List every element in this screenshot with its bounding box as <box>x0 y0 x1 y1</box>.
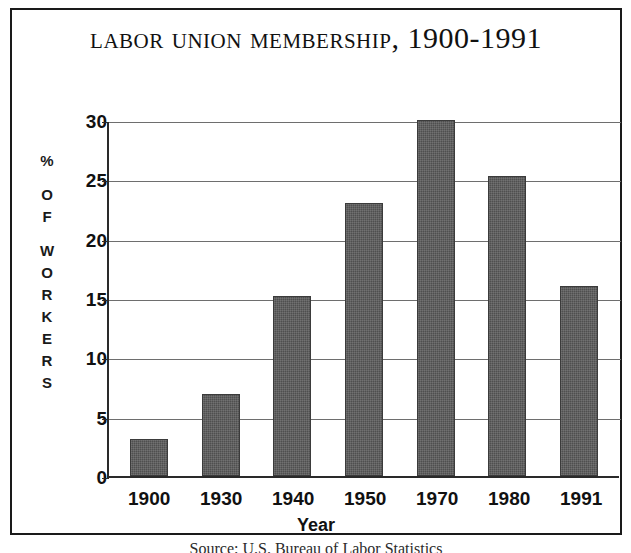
y-tick-label: 5 <box>67 408 107 430</box>
y-tick-mark <box>102 241 109 242</box>
bar-1980 <box>488 176 526 476</box>
y-tick-label: 10 <box>67 348 107 370</box>
plot-wrapper: 051015202530 <box>67 114 619 486</box>
bar-slot <box>202 122 240 476</box>
y-caption-letter: R <box>30 350 64 372</box>
y-tick-mark <box>102 122 109 123</box>
bar-1970 <box>417 120 455 476</box>
y-tick-mark <box>102 359 109 360</box>
x-tick-label: 1991 <box>560 488 598 510</box>
chart-figure-frame: Labor Union Membership, 1900-1991 %OFWOR… <box>10 8 622 535</box>
y-caption-letter: E <box>30 328 64 350</box>
source-caption: Source: U.S. Bureau of Labor Statistics <box>10 540 622 553</box>
y-tick-label: 15 <box>67 289 107 311</box>
y-caption-letter: F <box>30 206 64 228</box>
y-tick-mark <box>102 478 109 479</box>
y-caption-gap <box>30 228 64 240</box>
y-axis-caption: %OFWORKERS <box>30 150 64 394</box>
y-tick-label: 30 <box>67 111 107 133</box>
x-tick-label: 1930 <box>200 488 238 510</box>
x-tick-label: 1940 <box>272 488 310 510</box>
y-caption-letter: % <box>30 150 64 172</box>
bar-1991 <box>560 286 598 476</box>
bar-slot <box>417 122 455 476</box>
y-tick-label: 0 <box>67 467 107 489</box>
x-tick-label: 1980 <box>488 488 526 510</box>
chart-title: Labor Union Membership, 1900-1991 <box>12 20 620 56</box>
y-caption-letter: O <box>30 262 64 284</box>
y-caption-letter: W <box>30 240 64 262</box>
y-axis-tick-labels: 051015202530 <box>67 114 107 486</box>
y-tick-label: 20 <box>67 230 107 252</box>
x-tick-label: 1970 <box>416 488 454 510</box>
y-caption-letter: S <box>30 372 64 394</box>
chart-title-text: Labor Union Membership, <box>90 21 399 54</box>
bar-1930 <box>202 394 240 476</box>
x-tick-label: 1950 <box>344 488 382 510</box>
bar-series <box>109 122 619 476</box>
y-caption-letter: O <box>30 184 64 206</box>
chart-title-range: 1900-1991 <box>399 21 542 54</box>
bar-1900 <box>130 439 168 476</box>
y-tick-label: 25 <box>67 170 107 192</box>
bar-slot <box>130 122 168 476</box>
bar-slot <box>560 122 598 476</box>
y-caption-gap <box>30 172 64 184</box>
y-caption-letter: K <box>30 306 64 328</box>
plot-area <box>107 122 619 478</box>
y-tick-mark <box>102 181 109 182</box>
bar-slot <box>488 122 526 476</box>
y-tick-mark <box>102 300 109 301</box>
y-tick-mark <box>102 419 109 420</box>
bar-slot <box>345 122 383 476</box>
x-axis-title: Year <box>12 515 620 536</box>
x-axis-tick-labels: 1900193019401950197019801991 <box>107 488 619 510</box>
x-tick-label: 1900 <box>128 488 166 510</box>
bar-1940 <box>273 296 311 476</box>
bar-1950 <box>345 203 383 476</box>
bar-slot <box>273 122 311 476</box>
y-caption-letter: R <box>30 284 64 306</box>
